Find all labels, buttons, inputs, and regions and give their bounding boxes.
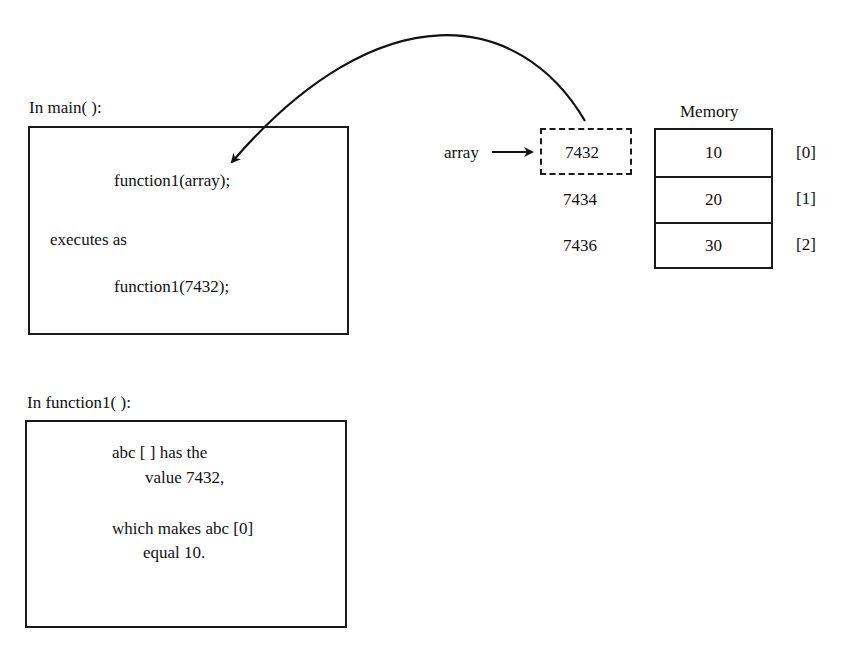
memory-block: 10 20 30 [654,128,773,269]
memory-title: Memory [680,103,739,120]
main-executes-label: executes as [50,231,127,248]
memory-index-0: [0] [796,144,816,161]
memory-index-2: [2] [796,236,816,253]
address-2: 7436 [563,237,597,254]
memory-cell: 30 [656,222,771,268]
main-heading: In main( ): [29,99,102,116]
address-1: 7434 [563,191,597,208]
memory-cell: 20 [656,176,771,222]
memory-cell: 10 [656,130,771,176]
function-line-3: which makes abc [0] [112,520,253,537]
main-resolved-line: function1(7432); [114,278,229,295]
main-box: function1(array); executes as function1(… [28,126,349,335]
function-line-1: abc [ ] has the [112,444,207,461]
main-call-line: function1(array); [114,172,230,189]
pointer-name: array [444,144,479,161]
address-0: 7432 [565,144,599,161]
function-line-4: equal 10. [143,544,205,561]
function-line-2: value 7432, [145,469,224,486]
function-heading: In function1( ): [27,394,131,411]
memory-index-1: [1] [796,190,816,207]
function-box: abc [ ] has the value 7432, which makes … [25,420,347,628]
